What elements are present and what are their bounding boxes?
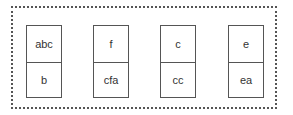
- cell-3: c cc: [160, 25, 196, 98]
- cell-1-bottom: b: [27, 62, 61, 97]
- cell-1-top: abc: [27, 26, 61, 63]
- cell-3-top: c: [161, 26, 195, 63]
- cell-4: e ea: [228, 25, 264, 98]
- cell-2-bottom: cfa: [94, 62, 128, 97]
- cell-1: abc b: [26, 25, 62, 98]
- cell-4-bottom: ea: [229, 62, 263, 97]
- cell-2: f cfa: [93, 25, 129, 98]
- cell-2-top: f: [94, 26, 128, 63]
- cell-3-bottom: cc: [161, 62, 195, 97]
- cell-4-top: e: [229, 26, 263, 63]
